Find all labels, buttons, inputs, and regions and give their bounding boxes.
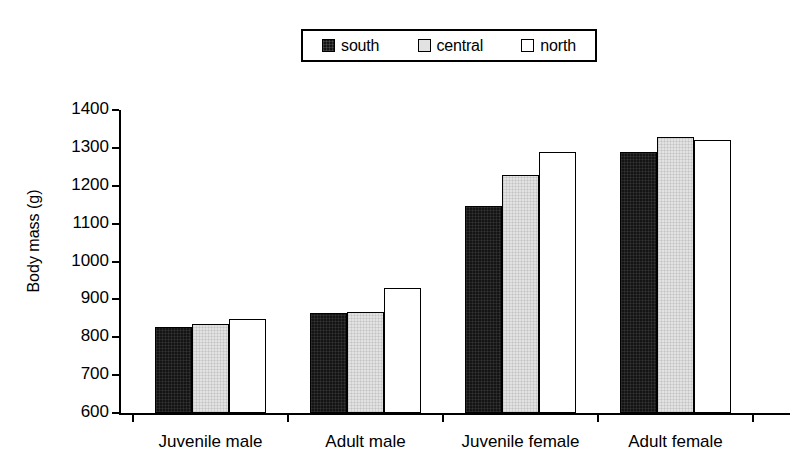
y-axis-tick: [112, 223, 119, 225]
x-axis-tick: [442, 413, 444, 422]
y-axis-tick-label: 900: [61, 288, 109, 308]
bar-south-juvenile-male: [155, 327, 192, 413]
bar-central-juvenile-male: [192, 324, 229, 413]
legend-swatch-south-icon: [322, 39, 335, 52]
bar-south-adult-female: [620, 152, 657, 413]
bar-south-juvenile-female: [465, 206, 502, 413]
y-axis-tick: [112, 261, 119, 263]
category-label-adult-female: Adult female: [628, 432, 723, 452]
y-axis-tick: [112, 147, 119, 149]
y-axis-tick: [112, 336, 119, 338]
bar-north-juvenile-female: [539, 152, 576, 413]
y-axis-tick: [112, 185, 119, 187]
x-axis-tick: [752, 413, 754, 422]
bar-north-adult-male: [384, 288, 421, 413]
legend-entry-north: north: [521, 38, 575, 54]
chart-legend: south central north: [301, 29, 597, 62]
legend-label-north: north: [540, 38, 575, 54]
y-axis-tick-label: 1400: [61, 99, 109, 119]
x-axis-line: [119, 413, 790, 415]
legend-label-central: central: [437, 38, 484, 54]
bar-central-juvenile-female: [502, 175, 539, 413]
legend-entry-south: south: [322, 38, 379, 54]
legend-swatch-north-icon: [521, 39, 534, 52]
bar-central-adult-female: [657, 137, 694, 413]
bar-central-adult-male: [347, 312, 384, 413]
y-axis-tick-label: 600: [61, 402, 109, 422]
y-axis-tick-label: 800: [61, 326, 109, 346]
y-axis-tick-label: 1300: [61, 137, 109, 157]
y-axis-line: [119, 110, 121, 413]
y-axis-label: Body mass (g): [25, 131, 43, 351]
y-axis-tick-label: 1100: [61, 213, 109, 233]
y-axis-tick-label: 700: [61, 364, 109, 384]
x-axis-tick: [597, 413, 599, 422]
y-axis-tick: [112, 109, 119, 111]
y-axis-tick-label: 1000: [61, 251, 109, 271]
x-axis-tick: [287, 413, 289, 422]
bar-south-adult-male: [310, 313, 347, 413]
legend-label-south: south: [341, 38, 379, 54]
category-label-adult-male: Adult male: [325, 432, 405, 452]
plot-area: 60070080090010001100120013001400: [119, 110, 790, 413]
legend-entry-central: central: [418, 38, 484, 54]
x-axis-tick: [132, 413, 134, 422]
bar-chart: south central north Body mass (g) 600700…: [0, 0, 803, 476]
y-axis-tick: [112, 298, 119, 300]
category-label-juvenile-male: Juvenile male: [159, 432, 263, 452]
y-axis-tick: [112, 412, 119, 414]
bar-north-juvenile-male: [229, 319, 266, 413]
y-axis-tick-label: 1200: [61, 175, 109, 195]
y-axis-tick: [112, 374, 119, 376]
category-label-juvenile-female: Juvenile female: [461, 432, 579, 452]
bar-north-adult-female: [694, 140, 731, 413]
legend-swatch-central-icon: [418, 39, 431, 52]
